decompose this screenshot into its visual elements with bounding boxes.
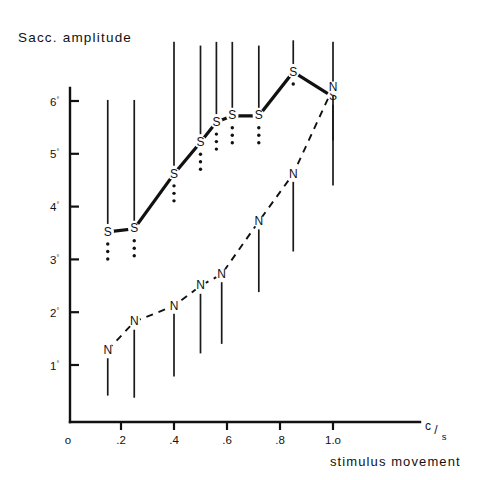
data-point-marker-s: S: [255, 108, 263, 122]
data-point-marker-n: N: [217, 267, 226, 281]
data-point-marker-n: N: [170, 299, 179, 313]
significance-dot: [133, 239, 136, 242]
y-axis-tick-label: 1°: [50, 360, 59, 372]
axis-labels-group: 1°2°3°4°5°6°o.2.4.6.81.oc/s: [50, 96, 447, 447]
x-axis-unit-numerator: c: [425, 419, 431, 433]
x-axis-title-text: stimulus movement: [330, 454, 461, 469]
significance-dot: [231, 126, 234, 129]
chart-title-text: Sacc. amplitude: [18, 30, 132, 45]
data-point-marker-s: S: [104, 225, 112, 239]
x-axis-tick-label: o: [65, 434, 71, 446]
data-point-marker-n: N: [254, 214, 263, 228]
x-axis-tick-label: .4: [169, 434, 179, 446]
x-axis-tick-label: .8: [275, 434, 285, 446]
data-point-marker-s: S: [289, 65, 297, 79]
significance-dot: [215, 140, 218, 143]
degree-symbol: °: [56, 254, 59, 261]
significance-dot: [257, 134, 260, 137]
significance-dot: [215, 132, 218, 135]
data-point-marker-n: N: [196, 278, 205, 292]
significance-dot: [231, 141, 234, 144]
significance-dot: [106, 257, 109, 260]
significance-dot: [257, 126, 260, 129]
data-point-marker-n: N: [329, 80, 338, 94]
significance-dot: [215, 147, 218, 150]
degree-symbol: °: [56, 96, 59, 103]
y-axis-tick-label: 2°: [50, 307, 59, 319]
x-axis-tick-label: .6: [222, 434, 232, 446]
y-axis-tick-label: 4°: [50, 201, 59, 213]
chart-plot: SSSSSSSSSNNNNNNNN 1°2°3°4°5°6°o.2.4.6.81…: [0, 0, 488, 480]
data-point-marker-n: N: [103, 343, 112, 357]
significance-dot: [231, 134, 234, 137]
significance-dot: [106, 250, 109, 253]
significance-dot: [133, 254, 136, 257]
data-series-group: SSSSSSSSSNNNNNNNN: [102, 40, 340, 397]
y-axis-tick-label: 3°: [50, 254, 59, 266]
x-axis-unit-denominator: s: [442, 431, 447, 442]
x-axis-tick-label: 1.o: [325, 434, 341, 446]
significance-dot: [172, 192, 175, 195]
degree-symbol: °: [56, 360, 59, 367]
figure-container: SSSSSSSSSNNNNNNNN 1°2°3°4°5°6°o.2.4.6.81…: [0, 0, 488, 480]
significance-dot: [172, 199, 175, 202]
data-point-marker-n: N: [130, 314, 139, 328]
data-point-marker-s: S: [228, 108, 236, 122]
data-point-marker-n: N: [289, 167, 298, 181]
x-axis-tick-label: .2: [116, 434, 126, 446]
significance-dot: [199, 152, 202, 155]
data-point-marker-s: S: [196, 135, 204, 149]
data-point-marker-s: S: [212, 115, 220, 129]
x-axis-title: stimulus movement: [330, 452, 461, 470]
x-axis-unit-slash: /: [434, 423, 438, 437]
data-point-marker-s: S: [170, 167, 178, 181]
chart-title: Sacc. amplitude: [18, 28, 132, 46]
significance-dot: [292, 82, 295, 85]
significance-dot: [133, 247, 136, 250]
significance-dot: [257, 141, 260, 144]
data-point-marker-s: S: [130, 221, 138, 235]
degree-symbol: °: [56, 307, 59, 314]
y-axis-tick-label: 6°: [50, 96, 59, 108]
x-axis-unit: c/s: [425, 419, 447, 442]
significance-dot: [172, 184, 175, 187]
significance-dot: [106, 242, 109, 245]
degree-symbol: °: [56, 148, 59, 155]
axes-group: [70, 88, 420, 430]
significance-dot: [199, 167, 202, 170]
series-line-s: [108, 72, 333, 232]
significance-dot: [199, 160, 202, 163]
degree-symbol: °: [56, 201, 59, 208]
y-axis-tick-label: 5°: [50, 148, 59, 160]
